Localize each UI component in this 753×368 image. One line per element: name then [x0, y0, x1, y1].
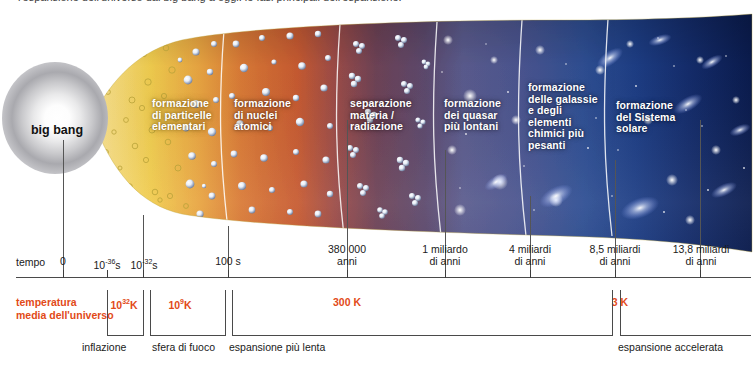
- time-label-7: 8,5 miliardi di anni: [568, 244, 662, 267]
- band-label-galassie: formazione delle galassie e degli elemen…: [528, 82, 604, 151]
- time-label-6: 4 miliardi di anni: [488, 244, 572, 267]
- time-axis-title: tempo: [16, 256, 45, 268]
- time-label-3: 100 s: [202, 256, 254, 268]
- connector-line-0: [63, 140, 64, 270]
- temp-label-2: 300 K: [322, 296, 372, 308]
- time-label-8: 13,8 miliardi di anni: [651, 244, 751, 267]
- time-label-2-exp: -32: [142, 258, 152, 265]
- temp-label-1: 109K: [158, 296, 202, 311]
- temperature-axis-title: temperatura media dell'universo: [16, 296, 114, 321]
- time-tick-6: [530, 270, 531, 278]
- time-label-0: 0: [53, 256, 73, 268]
- band-label-sistema: formazione del Sistema solare: [616, 100, 688, 135]
- big-bang-label: big bang: [26, 123, 88, 137]
- time-axis-line: [16, 277, 751, 278]
- time-tick-5: [445, 270, 446, 278]
- time-tick-0: [63, 270, 64, 278]
- band-label-separazione: separazione materia / radiazione: [350, 98, 422, 133]
- time-label-1-exp: -36: [105, 258, 115, 265]
- band-label-nuclei: formazione di nuclei atomici: [234, 98, 304, 133]
- phase-label-sfera-di-fuoco: sfera di fuoco: [152, 341, 215, 353]
- time-tick-7: [615, 270, 616, 278]
- time-tick-2: [143, 270, 144, 278]
- cosmology-timeline-figure: l'espansione dell'universo dal big bang …: [0, 0, 753, 368]
- phase-label-espansione-accelerata: espansione accelerata: [618, 341, 723, 353]
- phase-label-espansione-piu-lenta: espansione più lenta: [229, 341, 325, 353]
- temp-label-1-exp: 9: [180, 298, 184, 305]
- time-label-2: 10-32s: [122, 256, 166, 271]
- time-tick-1: [107, 270, 108, 278]
- band-label-particelle: formazione di particelle elementari: [152, 98, 226, 133]
- phase-label-inflazione: inflazione: [82, 341, 126, 353]
- big-bang-glow: [2, 62, 108, 174]
- band-label-quasar: formazione dei quasar più lontani: [444, 98, 518, 133]
- temp-label-0-exp: 32: [122, 298, 130, 305]
- time-tick-8: [700, 270, 701, 278]
- time-label-5: 1 miliardo di anni: [403, 244, 487, 267]
- time-tick-3: [228, 270, 229, 278]
- time-label-4: 380 000 anni: [308, 244, 386, 267]
- time-tick-4: [347, 270, 348, 278]
